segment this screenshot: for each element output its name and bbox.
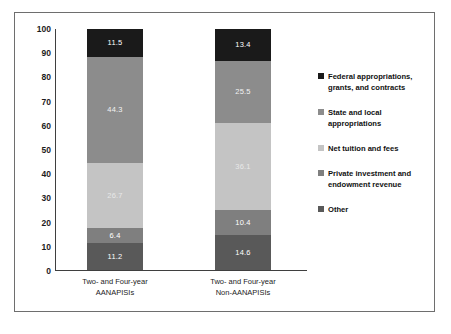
bar-segment[interactable]: 44.3 xyxy=(87,57,143,164)
segment-value-label: 10.4 xyxy=(235,219,250,227)
chart-frame: 0102030405060708090100 11.26.426.744.311… xyxy=(14,12,435,312)
y-tick-50: 50 xyxy=(42,145,51,155)
segment-value-label: 44.3 xyxy=(107,106,122,114)
legend-label: Private investment andendowment revenue xyxy=(328,168,411,190)
legend-label-line: Federal appropriations, xyxy=(328,71,412,82)
legend-label-line: endowment revenue xyxy=(328,179,411,190)
bar-segment[interactable]: 14.6 xyxy=(215,235,271,270)
y-tick-60: 60 xyxy=(42,121,51,131)
x-axis-line xyxy=(55,270,307,271)
segment-value-label: 25.5 xyxy=(235,88,250,96)
legend-swatch-icon xyxy=(318,109,324,115)
legend-swatch-icon xyxy=(318,170,324,176)
legend-label-line: Other xyxy=(328,204,348,215)
legend-label-line: Net tuition and fees xyxy=(328,143,398,154)
chart-legend: Federal appropriations,grants, and contr… xyxy=(318,71,430,229)
y-tick-20: 20 xyxy=(42,218,51,228)
bar-segment[interactable]: 6.4 xyxy=(87,228,143,243)
legend-label-line: State and local appropriations xyxy=(328,107,430,129)
segment-value-label: 14.6 xyxy=(235,249,250,257)
y-tick-10: 10 xyxy=(42,242,51,252)
segment-value-label: 6.4 xyxy=(109,232,120,240)
x-category-label-line: Two- and Four-year xyxy=(183,277,303,288)
bar-segment[interactable]: 25.5 xyxy=(215,61,271,122)
legend-item[interactable]: Federal appropriations,grants, and contr… xyxy=(318,71,430,93)
y-tick-90: 90 xyxy=(42,48,51,58)
legend-swatch-icon xyxy=(318,206,324,212)
legend-label-line: Private investment and xyxy=(328,168,411,179)
legend-label-line: grants, and contracts xyxy=(328,82,412,93)
legend-swatch-icon xyxy=(318,145,324,151)
bar-segment[interactable]: 10.4 xyxy=(215,210,271,235)
x-category-label-line: Two- and Four-year xyxy=(55,277,175,288)
y-tick-100: 100 xyxy=(37,24,51,34)
legend-item[interactable]: Net tuition and fees xyxy=(318,143,430,154)
legend-swatch-icon xyxy=(318,73,324,79)
x-category-label-0: Two- and Four-yearAANAPISIs xyxy=(55,277,175,299)
segment-value-label: 26.7 xyxy=(107,192,122,200)
y-tick-70: 70 xyxy=(42,97,51,107)
legend-label: Net tuition and fees xyxy=(328,143,398,154)
stacked-bar-1[interactable]: 14.610.436.125.513.4 xyxy=(215,29,271,270)
segment-value-label: 11.5 xyxy=(108,39,123,47)
legend-item[interactable]: Other xyxy=(318,204,430,215)
stacked-bar-0[interactable]: 11.26.426.744.311.5 xyxy=(87,29,143,270)
bar-segment[interactable]: 11.2 xyxy=(87,243,143,270)
bar-segment[interactable]: 36.1 xyxy=(215,123,271,210)
plot-area: 0102030405060708090100 11.26.426.744.311… xyxy=(55,29,307,271)
legend-item[interactable]: Private investment andendowment revenue xyxy=(318,168,430,190)
y-tick-0: 0 xyxy=(46,266,51,276)
y-tick-80: 80 xyxy=(42,72,51,82)
legend-label: Other xyxy=(328,204,348,215)
legend-label: State and local appropriations xyxy=(328,107,430,129)
x-category-label-line: AANAPISIs xyxy=(55,288,175,299)
segment-value-label: 11.2 xyxy=(108,253,123,261)
legend-item[interactable]: State and local appropriations xyxy=(318,107,430,129)
y-tick-40: 40 xyxy=(42,169,51,179)
bar-segment[interactable]: 13.4 xyxy=(215,29,271,61)
segment-value-label: 13.4 xyxy=(235,41,250,49)
x-category-label-line: Non-AANAPISIs xyxy=(183,288,303,299)
segment-value-label: 36.1 xyxy=(235,163,250,171)
bar-segment[interactable]: 26.7 xyxy=(87,163,143,227)
y-tick-30: 30 xyxy=(42,193,51,203)
x-category-label-1: Two- and Four-yearNon-AANAPISIs xyxy=(183,277,303,299)
y-axis-line xyxy=(55,29,56,271)
legend-label: Federal appropriations,grants, and contr… xyxy=(328,71,412,93)
bar-segment[interactable]: 11.5 xyxy=(87,29,143,57)
